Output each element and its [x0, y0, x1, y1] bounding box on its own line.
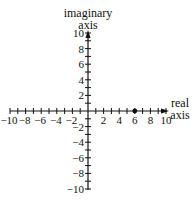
real-axis-arrow-icon: [161, 109, 169, 114]
imaginary-tick-label: −2: [72, 121, 84, 133]
real-tick-label: 8: [148, 114, 154, 126]
imaginary-tick-label: 10: [73, 27, 85, 39]
real-tick-label: 2: [101, 114, 107, 126]
imaginary-axis-label: imaginary axis: [64, 6, 113, 32]
imaginary-tick-label: 4: [79, 74, 85, 86]
imaginary-tick-label: −6: [72, 152, 84, 164]
real-axis-label: real axis: [170, 96, 190, 122]
imaginary-tick-label: 6: [79, 58, 85, 70]
imaginary-tick-label: 8: [79, 43, 85, 55]
real-tick-label: 10: [161, 114, 173, 126]
imaginary-tick-label: 2: [79, 89, 85, 101]
real-tick-label: 4: [116, 114, 122, 126]
real-tick-label: −4: [50, 114, 62, 126]
real-tick-label: −8: [19, 114, 31, 126]
complex-plane-diagram: imaginary axis real axis −10−8−6−4−22468…: [0, 0, 195, 206]
real-tick-label: 6: [132, 114, 138, 126]
plotted-point-dot-icon: [132, 109, 137, 114]
imaginary-tick-label: −4: [72, 136, 84, 148]
real-tick-label: −10: [0, 114, 18, 126]
plotted-points: [132, 109, 137, 114]
real-axis-label-line2: axis: [170, 108, 190, 122]
real-tick-label: −6: [34, 114, 46, 126]
real-axis-tick-labels: −10−8−6−4−2246810: [0, 114, 172, 126]
imaginary-tick-label: −10: [67, 183, 85, 195]
imaginary-tick-label: −8: [72, 167, 84, 179]
